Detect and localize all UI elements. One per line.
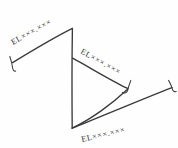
callout-label-middle-right: EL×××.××× [79, 47, 122, 77]
elevation-drawing-canvas: EL×××.××× EL×××.××× EL×××.××× [0, 0, 178, 148]
lower-right-terminator-tick [169, 80, 177, 91]
upper-left-terminator-tick [10, 56, 16, 71]
lower-right-leader [72, 80, 176, 128]
callout-label-lower-right: EL×××.××× [80, 125, 126, 144]
drawing-svg: EL×××.××× EL×××.××× EL×××.××× [0, 0, 178, 148]
triangle-outline [72, 29, 128, 129]
